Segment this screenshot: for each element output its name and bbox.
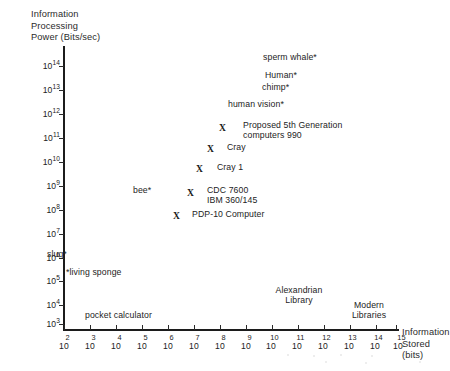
x-tick-label: 710 <box>180 334 208 351</box>
data-label-modern-libraries: Modern Libraries <box>341 300 397 321</box>
y-tick-label: 104 <box>30 300 60 310</box>
x-tick <box>90 325 91 330</box>
x-tick-label: 410 <box>102 334 130 351</box>
data-label-pocket-calculator: pocket calculator <box>85 310 152 320</box>
data-label-living-sponge: *living sponge <box>66 267 122 277</box>
y-tick-label: 109 <box>30 181 60 191</box>
x-tick <box>246 325 247 330</box>
y-tick-label: 1010 <box>30 157 60 167</box>
x-tick-label: 310 <box>76 334 104 351</box>
x-tick <box>116 325 117 330</box>
x-tick-label: 610 <box>154 334 182 351</box>
data-point-marker-cdc-7600: X <box>187 187 194 198</box>
scan-noise-artifact <box>280 352 449 366</box>
y-tick-label: 107 <box>30 229 60 239</box>
y-tick-label: 1011 <box>30 133 60 143</box>
x-tick <box>194 325 195 330</box>
x-tick <box>298 325 299 330</box>
data-point-marker-fifth-gen: X <box>219 122 226 133</box>
data-label-cdc-ibm: CDC 7600 IBM 360/145 <box>207 185 257 206</box>
data-point-marker-cray-1: X <box>196 163 203 174</box>
y-tick-label: 1014 <box>30 61 60 71</box>
x-tick <box>396 325 397 330</box>
y-tick-label: 1013 <box>30 85 60 95</box>
x-tick-label: 810 <box>206 334 234 351</box>
data-label-pdp-10: PDP-10 Computer <box>192 209 264 219</box>
x-tick <box>376 325 377 330</box>
data-label-alexandrian-library: Alexandrian Library <box>267 285 331 306</box>
data-label-chimp: chimp* <box>262 82 289 92</box>
x-tick-label: 210 <box>50 334 78 351</box>
data-label-bee: bee* <box>133 185 151 195</box>
y-tick-label: 1012 <box>30 109 60 119</box>
x-tick <box>350 325 351 330</box>
data-label-cray-1: Cray 1 <box>217 162 243 172</box>
x-tick <box>324 325 325 330</box>
data-point-marker-cray: X <box>207 143 214 154</box>
y-tick-label: 108 <box>30 205 60 215</box>
x-tick <box>142 325 143 330</box>
y-axis-title: Information Processing Power (Bits/sec) <box>31 9 100 44</box>
y-tick-label: 105 <box>30 276 60 286</box>
y-tick-label: 103 <box>30 319 60 329</box>
x-axis-line <box>63 329 399 331</box>
data-label-human-vision: human vision* <box>228 99 284 109</box>
data-label-sperm-whale: sperm whale* <box>263 52 317 62</box>
data-label-fifth-gen: Proposed 5th Generation computers 990 <box>243 120 342 141</box>
x-tick <box>272 325 273 330</box>
data-point-marker-pdp-10: X <box>173 210 180 221</box>
x-tick <box>64 325 65 330</box>
x-tick <box>168 325 169 330</box>
x-tick-label: 510 <box>128 334 156 351</box>
data-label-cray: Cray <box>227 142 246 152</box>
x-tick <box>220 325 221 330</box>
data-label-human: Human* <box>265 70 297 80</box>
y-axis-line <box>63 46 65 331</box>
x-tick-label: 1510 <box>383 334 413 351</box>
data-label-slug: slug* <box>47 249 67 259</box>
